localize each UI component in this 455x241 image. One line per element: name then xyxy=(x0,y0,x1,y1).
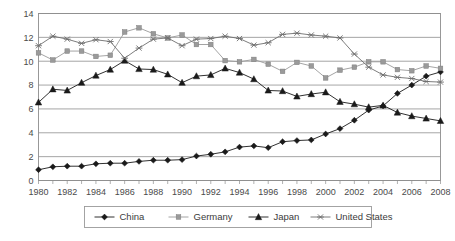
x-tick-label: 2004 xyxy=(373,187,393,197)
legend-label: China xyxy=(120,211,146,222)
marker-square xyxy=(309,64,314,69)
data-point xyxy=(223,58,228,63)
marker-square xyxy=(180,33,185,38)
data-point xyxy=(338,68,343,73)
x-tick-label: 1994 xyxy=(229,187,249,197)
x-tick-label: 2006 xyxy=(402,187,422,197)
data-point xyxy=(252,57,257,62)
legend-marker-square-icon xyxy=(176,215,181,220)
x-tick-label: 2000 xyxy=(316,187,336,197)
marker-square xyxy=(424,64,429,69)
legend-label: Japan xyxy=(274,211,300,222)
y-tick-label: 14 xyxy=(23,9,33,19)
marker-square xyxy=(381,60,386,65)
marker-square xyxy=(36,51,41,56)
y-tick-label: 0 xyxy=(28,176,33,186)
data-point xyxy=(323,76,328,81)
data-point xyxy=(151,31,156,36)
x-tick-label: 2008 xyxy=(430,187,450,197)
x-tick-label: 1984 xyxy=(86,187,106,197)
data-point xyxy=(94,54,99,59)
data-point xyxy=(395,67,400,72)
legend-label: United States xyxy=(336,211,393,222)
data-point xyxy=(409,68,414,73)
marker-square xyxy=(108,53,113,58)
data-point xyxy=(36,51,41,56)
marker-square xyxy=(280,69,285,74)
data-point xyxy=(194,42,199,47)
x-tick-label: 1996 xyxy=(258,187,278,197)
data-point xyxy=(180,33,185,38)
data-point xyxy=(266,62,271,67)
data-point xyxy=(295,60,300,65)
marker-square xyxy=(79,49,84,54)
x-tick-label: 1986 xyxy=(115,187,135,197)
marker-square xyxy=(395,67,400,72)
marker-square xyxy=(338,68,343,73)
data-point xyxy=(237,60,242,65)
x-tick-label: 1988 xyxy=(143,187,163,197)
marker-square xyxy=(122,30,127,35)
data-point xyxy=(65,49,70,54)
marker-square xyxy=(366,60,371,65)
marker-square xyxy=(409,68,414,73)
y-tick-label: 2 xyxy=(28,152,33,162)
marker-square xyxy=(266,62,271,67)
data-point xyxy=(424,64,429,69)
chart-legend: ChinaGermanyJapanUnited States xyxy=(85,207,393,228)
data-point xyxy=(79,49,84,54)
y-tick-label: 10 xyxy=(23,57,33,67)
x-axis-tick-labels: 1980198219841986198819901992199419961998… xyxy=(28,187,450,197)
data-point xyxy=(438,66,443,71)
marker-square xyxy=(323,76,328,81)
data-point xyxy=(137,26,142,31)
data-point xyxy=(280,69,285,74)
marker-square xyxy=(438,66,443,71)
data-point xyxy=(309,64,314,69)
x-tick-label: 2002 xyxy=(344,187,364,197)
data-point xyxy=(208,42,213,47)
data-point xyxy=(51,58,56,63)
data-point xyxy=(352,65,357,70)
y-tick-label: 12 xyxy=(23,33,33,43)
marker-square xyxy=(65,49,70,54)
y-tick-label: 8 xyxy=(28,80,33,90)
marker-square xyxy=(208,42,213,47)
marker-square xyxy=(137,26,142,31)
x-tick-label: 1990 xyxy=(172,187,192,197)
x-tick-label: 1982 xyxy=(57,187,77,197)
data-point xyxy=(108,53,113,58)
line-chart-figure: 02468101214 1980198219841986198819901992… xyxy=(0,0,455,241)
legend-label: Germany xyxy=(194,211,233,222)
data-point xyxy=(381,60,386,65)
chart-canvas: 02468101214 1980198219841986198819901992… xyxy=(0,0,455,241)
marker-square xyxy=(252,57,257,62)
marker-square xyxy=(94,54,99,59)
marker-square xyxy=(352,65,357,70)
marker-square xyxy=(194,42,199,47)
marker-square xyxy=(295,60,300,65)
data-point xyxy=(122,30,127,35)
x-tick-label: 1992 xyxy=(201,187,221,197)
y-tick-label: 6 xyxy=(28,104,33,114)
data-point xyxy=(366,60,371,65)
y-tick-label: 4 xyxy=(28,128,33,138)
x-tick-label: 1998 xyxy=(287,187,307,197)
marker-square xyxy=(51,58,56,63)
marker-square xyxy=(151,31,156,36)
x-tick-label: 1980 xyxy=(28,187,48,197)
marker-square xyxy=(176,215,181,220)
marker-square xyxy=(223,58,228,63)
marker-square xyxy=(237,60,242,65)
